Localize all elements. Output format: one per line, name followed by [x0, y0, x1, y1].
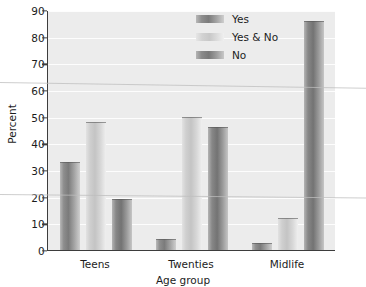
bar — [156, 239, 176, 250]
x-axis-tick-label: Teens — [80, 258, 110, 270]
bar — [60, 162, 80, 250]
legend-item-no: No — [196, 46, 296, 64]
y-axis-tick-label: 90 — [5, 5, 45, 17]
gridline — [48, 91, 335, 92]
legend-item-label: Yes & No — [232, 31, 278, 43]
legend-item-yes: Yes — [196, 10, 296, 28]
bar — [252, 243, 272, 250]
y-axis-tick-label: 0 — [5, 245, 45, 257]
bar — [304, 21, 324, 250]
x-axis-label: Age group — [0, 274, 366, 286]
x-axis-tick-label: Twenties — [168, 258, 213, 270]
bar — [182, 117, 202, 250]
bar-chart: Percent 0102030405060708090 TeensTwentie… — [0, 0, 366, 287]
y-axis-tick-label: 60 — [5, 85, 45, 97]
bar — [278, 218, 298, 250]
bar-top-edge — [60, 162, 80, 163]
legend-item-yes-and-no: Yes & No — [196, 28, 296, 46]
legend-item-label: Yes — [232, 13, 249, 25]
y-axis-tick-label: 40 — [5, 138, 45, 150]
bar — [86, 122, 106, 250]
x-axis-tick-label: Midlife — [270, 258, 305, 270]
bar-top-edge — [252, 243, 272, 244]
y-axis-tick-label: 80 — [5, 32, 45, 44]
bar-top-edge — [304, 21, 324, 22]
bar — [112, 199, 132, 250]
legend-swatch-icon — [196, 33, 224, 41]
y-axis-tick-label: 30 — [5, 165, 45, 177]
bar-top-edge — [182, 117, 202, 118]
legend-item-label: No — [232, 49, 246, 61]
y-axis-tick-label: 20 — [5, 192, 45, 204]
gridline — [48, 64, 335, 65]
y-axis-tick-label: 50 — [5, 112, 45, 124]
y-axis-tick-label: 10 — [5, 218, 45, 230]
bar-top-edge — [112, 199, 132, 200]
y-axis-tick-label: 70 — [5, 58, 45, 70]
bar — [208, 127, 228, 250]
bar-top-edge — [86, 122, 106, 123]
chart-legend: Yes Yes & No No — [196, 10, 296, 64]
bar-top-edge — [156, 239, 176, 240]
legend-swatch-icon — [196, 51, 224, 59]
bar-top-edge — [208, 127, 228, 128]
legend-swatch-icon — [196, 15, 224, 23]
bar-top-edge — [278, 218, 298, 219]
